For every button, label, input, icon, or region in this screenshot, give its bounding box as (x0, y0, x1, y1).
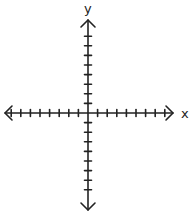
y-axis (81, 20, 95, 210)
x-axis-label: x (181, 106, 189, 121)
x-axis (5, 106, 173, 120)
y-axis-label: y (84, 1, 92, 16)
coordinate-plane: x y (0, 0, 193, 218)
